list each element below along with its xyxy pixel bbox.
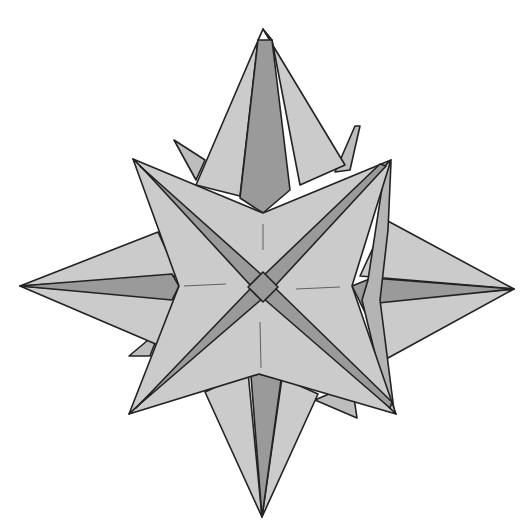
origami-star-figure (0, 0, 528, 529)
origami-star-svg (0, 0, 528, 529)
star-faces (20, 29, 514, 517)
